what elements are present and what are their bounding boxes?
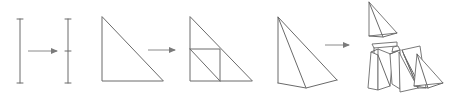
top-tetrahedron-piece xyxy=(369,2,397,37)
tetrahedron xyxy=(278,17,337,88)
bisected-line-segment xyxy=(65,19,71,83)
middle-prism-piece xyxy=(390,46,400,89)
line-segment xyxy=(17,19,23,83)
subdivided-right-triangle xyxy=(190,17,252,81)
left-prism-piece xyxy=(368,49,393,90)
right-triangle xyxy=(102,17,163,81)
right-tetrahedron-piece xyxy=(414,54,443,88)
exploded-tetrahedron-pieces xyxy=(368,2,443,92)
dissection-diagram xyxy=(0,0,460,97)
